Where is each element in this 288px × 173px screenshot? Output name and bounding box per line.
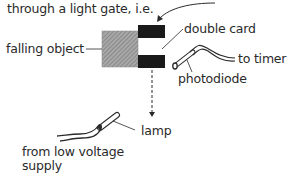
curved-arrow [160,3,215,18]
photodiode [173,45,235,69]
label-falling-object: falling object [6,42,84,56]
double-card-leader [162,29,183,49]
light-beam-arrow [149,112,155,117]
intro-text: through a light gate, i.e. [7,2,153,16]
lamp [57,115,117,141]
label-lamp: lamp [141,124,171,138]
label-supply-line2: supply [22,159,62,173]
label-photodiode: photodiode [178,72,247,86]
label-double-card: double card [184,22,256,36]
label-supply-line1: from low voltage [22,145,124,159]
lamp-leader [113,121,135,130]
double-card-top [138,25,165,38]
falling-object-block [102,31,138,67]
label-to-timer: to timer [238,52,286,66]
double-card-bottom [138,55,165,68]
